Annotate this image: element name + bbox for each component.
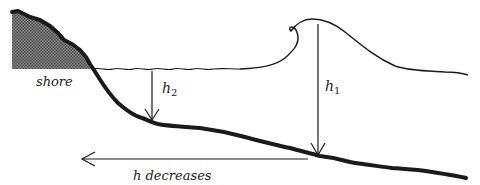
shore-label: shore [36, 74, 73, 89]
h2-depth-arrow [145, 71, 159, 120]
h2-label: h2 [162, 80, 177, 98]
breaking-wave-profile [240, 19, 468, 75]
h-decreases-arrow [82, 152, 308, 166]
h1-label: h1 [325, 78, 340, 96]
water-surface-line [93, 68, 240, 69]
h1-depth-arrow [311, 24, 325, 155]
shore-landmass [12, 11, 93, 69]
sea-floor-line [12, 11, 466, 178]
wave-shore-diagram: shore h2 h1 h decreases [0, 0, 480, 185]
h-decreases-label: h decreases [133, 168, 212, 183]
